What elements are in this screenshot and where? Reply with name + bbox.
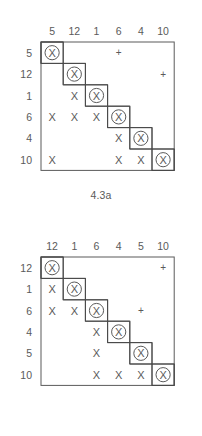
cell-x: X (71, 111, 79, 123)
cell-x: X (93, 369, 101, 381)
x-glyph: X (93, 90, 101, 102)
column-header: 6 (116, 25, 122, 37)
figure-caption-a: 4.3a (0, 189, 202, 201)
cell-x: X (93, 326, 101, 338)
row-header: 6 (26, 305, 32, 317)
x-glyph: X (137, 347, 145, 359)
cell-plus: + (138, 305, 144, 316)
cell-circled-x: X (63, 278, 85, 299)
cell-circled-x: X (108, 321, 130, 342)
cell-circled-x: X (41, 42, 63, 63)
cell-x: X (115, 132, 123, 144)
cell-x: X (48, 305, 56, 317)
column-header: 4 (116, 240, 122, 252)
matrix-diagram-b: 1216451012164510X+XXXXX+XXXXXXXX (0, 215, 202, 410)
column-header: 1 (71, 240, 77, 252)
cell-circled-x: X (152, 149, 174, 170)
x-glyph: X (93, 305, 101, 317)
matrix-container-a: 5121641051216410X+X+XXXXXXXXXXXX (0, 0, 202, 190)
cell-x: X (137, 154, 145, 166)
x-glyph: X (159, 369, 167, 381)
column-header: 1 (94, 25, 100, 37)
x-glyph: X (48, 262, 56, 274)
figure-page: 5121641051216410X+X+XXXXXXXXXXXX 4.3a 12… (0, 0, 202, 436)
row-header: 12 (20, 262, 32, 274)
cell-plus: + (160, 262, 166, 273)
cell-circled-x: X (130, 128, 152, 149)
matrix-container-b: 1216451012164510X+XXXXX+XXXXXXXX (0, 215, 202, 410)
cell-x: X (115, 154, 123, 166)
cell-x: X (71, 305, 79, 317)
column-header: 12 (68, 25, 80, 37)
x-glyph: X (115, 326, 123, 338)
x-glyph: X (115, 111, 123, 123)
row-header: 6 (26, 111, 32, 123)
cell-x: X (48, 111, 56, 123)
cell-circled-x: X (85, 300, 107, 321)
matrix-diagram-a: 5121641051216410X+X+XXXXXXXXXXXX (0, 0, 202, 190)
cell-circled-x: X (130, 343, 152, 364)
x-glyph: X (137, 132, 145, 144)
figure-4-3b: 1216451012164510X+XXXXX+XXXXXXXX 4.3b (0, 215, 202, 436)
column-header: 10 (157, 240, 169, 252)
x-glyph: X (71, 68, 79, 80)
x-glyph: X (159, 154, 167, 166)
cell-x: X (137, 369, 145, 381)
column-header: 5 (49, 25, 55, 37)
row-header: 10 (20, 369, 32, 381)
cell-circled-x: X (152, 364, 174, 385)
figure-4-3a: 5121641051216410X+X+XXXXXXXXXXXX 4.3a (0, 0, 202, 215)
column-header: 12 (46, 240, 58, 252)
row-header: 5 (26, 47, 32, 59)
cell-x: X (71, 90, 79, 102)
cell-x: X (93, 347, 101, 359)
cell-x: X (48, 154, 56, 166)
column-header: 10 (157, 25, 169, 37)
cell-x: X (48, 283, 56, 295)
cell-x: X (93, 111, 101, 123)
cell-x: X (115, 369, 123, 381)
x-glyph: X (71, 283, 79, 295)
cell-circled-x: X (41, 257, 63, 278)
cell-circled-x: X (63, 63, 85, 84)
row-header: 4 (26, 326, 32, 338)
row-header: 10 (20, 154, 32, 166)
cell-circled-x: X (108, 106, 130, 127)
row-header: 12 (20, 68, 32, 80)
row-header: 1 (26, 283, 32, 295)
cell-plus: + (160, 69, 166, 80)
column-header: 6 (94, 240, 100, 252)
column-header: 5 (138, 240, 144, 252)
column-header: 4 (138, 25, 144, 37)
row-header: 4 (26, 132, 32, 144)
row-header: 1 (26, 90, 32, 102)
cell-plus: + (116, 47, 122, 58)
cell-circled-x: X (85, 85, 107, 106)
row-header: 5 (26, 347, 32, 359)
x-glyph: X (48, 47, 56, 59)
